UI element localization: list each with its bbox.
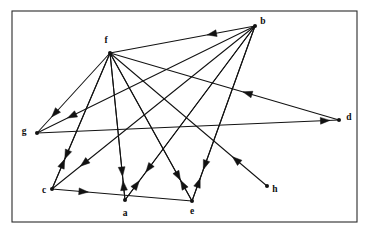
node-h: [265, 184, 269, 188]
edge-a-b: [125, 26, 255, 200]
arrowhead-g-d: [320, 117, 330, 124]
arrowhead-b-g: [68, 111, 78, 118]
node-f: [108, 51, 112, 55]
arrowhead-e-b: [194, 178, 200, 188]
node-b: [253, 24, 257, 28]
arrowhead-c-f: [58, 159, 65, 169]
arrowhead-b-c: [80, 158, 90, 167]
node-g: [35, 131, 39, 135]
node-label-f: f: [104, 35, 108, 45]
directed-graph-canvas: abcdefgh: [0, 0, 367, 237]
node-label-d: d: [346, 112, 352, 122]
arrowhead-a-f: [121, 181, 128, 191]
node-e: [190, 199, 194, 203]
node-label-e: e: [190, 206, 194, 216]
edge-c-e: [52, 189, 192, 201]
arrowhead-b-f: [207, 30, 217, 37]
node-label-h: h: [272, 184, 278, 194]
figure-container: abcdefgh: [0, 0, 367, 237]
edge-b-f: [110, 26, 255, 53]
arrowhead-d-f: [243, 91, 253, 98]
node-label-a: a: [123, 208, 128, 218]
edge-f-g: [37, 53, 110, 133]
arrowhead-c-e: [79, 188, 89, 195]
edge-g-d: [37, 120, 339, 133]
node-c: [50, 187, 54, 191]
node-label-c: c: [42, 185, 46, 195]
nodes-layer: [35, 24, 341, 203]
node-label-g: g: [22, 126, 27, 136]
node-d: [337, 118, 341, 122]
node-a: [123, 198, 127, 202]
edge-h-f: [110, 53, 267, 186]
edges-layer: [37, 26, 339, 201]
arrowhead-e-f: [181, 180, 189, 190]
arrowhead-a-b: [131, 181, 139, 191]
node-label-b: b: [260, 16, 265, 26]
